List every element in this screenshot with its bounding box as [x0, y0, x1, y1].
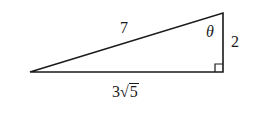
- vertical-side-label: 2: [231, 34, 239, 50]
- base-label: 3√5: [112, 83, 139, 100]
- base-coefficient: 3: [112, 84, 120, 100]
- base-radicand: 5: [129, 83, 139, 100]
- right-angle-marker: [215, 64, 223, 72]
- angle-theta-label: θ: [206, 24, 214, 40]
- radical-sign: √: [120, 84, 129, 100]
- hypotenuse-label: 7: [120, 20, 128, 36]
